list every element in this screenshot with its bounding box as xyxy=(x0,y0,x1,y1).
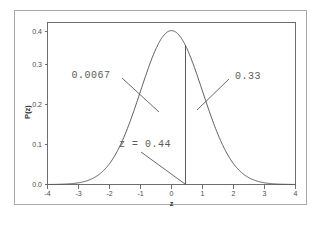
y-tick-label-0: 0.0 xyxy=(32,181,42,188)
x-tick-label-1: 1 xyxy=(201,190,205,197)
x-tick-label-m2: -2 xyxy=(106,190,112,197)
x-axis-title: z xyxy=(170,199,174,208)
y-axis-title: P(z) xyxy=(23,105,32,119)
left-area-label: 0.0067 xyxy=(71,70,110,81)
y-tick-label-3: 0.3 xyxy=(32,61,42,68)
x-tick-label-m4: -4 xyxy=(44,190,50,197)
right-area-leader-line xyxy=(197,79,229,110)
z-value-label: z = 0.44 xyxy=(119,139,171,150)
left-area-leader-line xyxy=(122,78,159,112)
figure-container: 0.0 0.1 0.2 0.3 0.4 P(z) -4 -3 -2 -1 0 1… xyxy=(0,0,324,225)
z-value-leader-line xyxy=(141,152,185,184)
x-axis-ticks xyxy=(48,185,296,189)
x-tick-label-2: 2 xyxy=(232,190,236,197)
y-tick-label-1: 0.1 xyxy=(32,141,42,148)
x-tick-label-0: 0 xyxy=(170,190,174,197)
right-area-label: 0.33 xyxy=(235,71,261,82)
x-tick-label-4: 4 xyxy=(294,190,298,197)
normal-density-curve xyxy=(48,31,296,185)
y-tick-label-4: 0.4 xyxy=(32,28,42,35)
normal-distribution-chart: 0.0 0.1 0.2 0.3 0.4 P(z) -4 -3 -2 -1 0 1… xyxy=(0,0,324,225)
x-tick-label-m3: -3 xyxy=(75,190,81,197)
plot-area-box xyxy=(48,23,296,185)
x-tick-label-3: 3 xyxy=(263,190,267,197)
y-tick-label-2: 0.2 xyxy=(32,101,42,108)
x-tick-label-m1: -1 xyxy=(137,190,143,197)
